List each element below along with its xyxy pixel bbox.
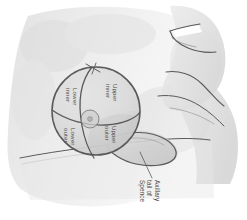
upper-outer-line-2: outer (104, 126, 111, 141)
nipple (88, 117, 93, 122)
upper-outer-line-1: Upper (111, 126, 118, 143)
lower-outer-line-1: Lower (70, 128, 77, 145)
lower-inner-line-2: inner (65, 88, 72, 102)
lower-outer-line-2: outer (63, 128, 70, 143)
lower-inner-line-1: Lower (72, 88, 79, 105)
breast-quadrants-figure: Upper inner Lower inner Lower outer Uppe… (0, 0, 247, 220)
axillary-tail-line-2: tail of (146, 180, 153, 196)
axillary-tail-line-3: Spence (138, 180, 146, 203)
upper-inner-line-2: inner (105, 84, 112, 98)
callout-label-axillary-tail: Axillary tail of Spence (138, 180, 161, 203)
anatomy-illustration: Upper inner Lower inner Lower outer Uppe… (0, 0, 247, 220)
upper-inner-line-1: Upper (112, 84, 119, 101)
